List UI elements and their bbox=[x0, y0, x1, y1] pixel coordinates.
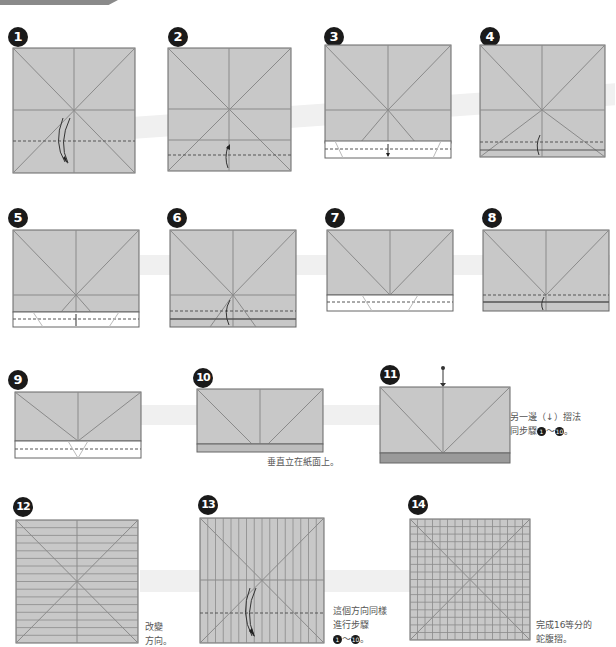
step-1-diagram bbox=[13, 48, 135, 173]
step-badge-6: 6 bbox=[167, 208, 187, 228]
step-11-note: 另一邊（↓）摺法 同步驟1～10。 bbox=[510, 410, 581, 438]
step-3-diagram bbox=[325, 45, 451, 129]
step-4-diagram bbox=[480, 45, 605, 157]
step-badge-8: 8 bbox=[482, 208, 502, 228]
step-badge-4: 4 bbox=[480, 27, 500, 47]
step-badge-12: 12 bbox=[13, 497, 33, 517]
step-12-note: 改變 方向。 bbox=[145, 620, 172, 647]
step-10-diagram bbox=[197, 389, 323, 452]
step-8-diagram bbox=[483, 230, 609, 311]
step-12-diagram bbox=[16, 520, 138, 643]
step-badge-5: 5 bbox=[8, 208, 28, 228]
step-9-diagram bbox=[15, 392, 141, 458]
step-3-flap bbox=[325, 141, 451, 158]
step-2-diagram bbox=[168, 48, 291, 171]
step-10-note: 垂直立在紙面上。 bbox=[267, 455, 339, 469]
step-13-note: 這個方向同樣 進行步驟 1～10。 bbox=[333, 604, 387, 646]
step-badge-7: 7 bbox=[325, 208, 345, 228]
step-11-diagram bbox=[380, 365, 510, 463]
step-badge-1: 1 bbox=[8, 27, 28, 47]
arrow-down-icon: ↓ bbox=[546, 412, 554, 422]
step-badge-2: 2 bbox=[168, 27, 188, 47]
step-badge-14: 14 bbox=[408, 495, 428, 515]
step-badge-3: 3 bbox=[324, 27, 344, 47]
step-ref-badge: 1 bbox=[537, 427, 546, 436]
step-badge-10: 10 bbox=[193, 368, 213, 388]
step-7-diagram bbox=[327, 230, 453, 311]
step-ref-badge: 10 bbox=[351, 635, 360, 644]
step-ref-badge: 10 bbox=[555, 427, 564, 436]
step-5-diagram bbox=[13, 230, 139, 327]
step-ref-badge: 1 bbox=[333, 635, 342, 644]
step-14-note: 完成16等分的 蛇腹摺。 bbox=[536, 618, 592, 646]
step-6-diagram bbox=[170, 230, 296, 327]
step-13-diagram bbox=[200, 518, 324, 643]
step-badge-9: 9 bbox=[8, 370, 28, 390]
step-14-diagram bbox=[410, 519, 530, 640]
step-badge-13: 13 bbox=[198, 495, 218, 515]
header-banner bbox=[0, 0, 118, 5]
